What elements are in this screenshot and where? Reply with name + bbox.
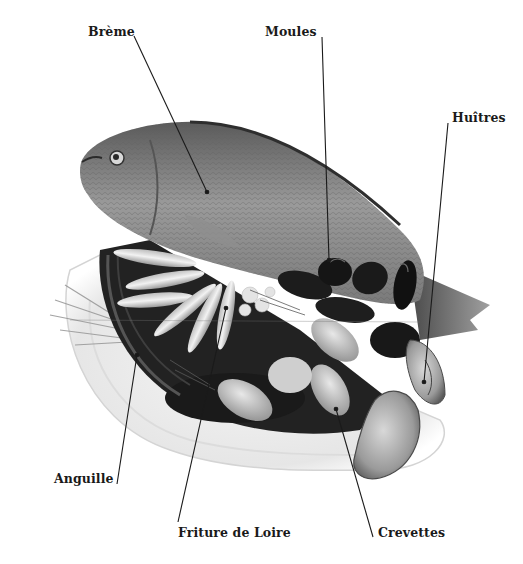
label-huitres: Huîtres [452,111,506,125]
label-breme: Brème [88,25,135,39]
label-anguille: Anguille [54,472,114,486]
label-crevettes: Crevettes [378,526,445,540]
label-friture-de-loire: Friture de Loire [178,526,291,540]
labeled-illustration: Brème Moules Huîtres Anguille Friture de… [0,0,523,564]
label-moules: Moules [265,25,317,39]
